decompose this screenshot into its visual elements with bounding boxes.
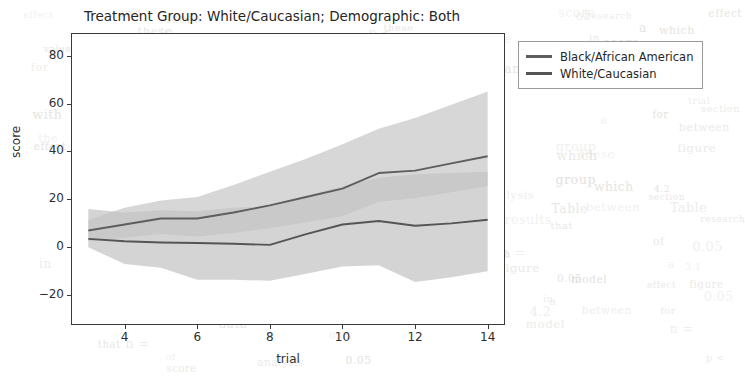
plot-svg (72, 34, 504, 324)
x-tick-mark (270, 325, 271, 329)
y-tick-label: 40 (30, 143, 64, 157)
bleed-text: a (600, 114, 607, 127)
bleed-text: in (543, 293, 554, 304)
x-tick-mark (125, 325, 126, 329)
legend-swatch-line (526, 55, 552, 57)
bleed-text: trial (688, 95, 710, 106)
bleed-text: p < (706, 352, 725, 363)
bleed-text: between (679, 121, 730, 134)
bleed-text: research (587, 10, 632, 21)
bleed-text: that (551, 220, 573, 231)
bleed-text: Table (670, 200, 707, 215)
x-tick-label: 10 (322, 330, 362, 344)
bleed-text: score (558, 5, 595, 20)
bleed-text: for (31, 61, 49, 74)
y-tick-label: 20 (30, 191, 64, 205)
bleed-text: in (39, 257, 52, 271)
x-axis-label: trial (0, 352, 576, 366)
x-tick-mark (197, 325, 198, 329)
bleed-text: effect (23, 9, 53, 20)
bleed-text: 0.05 (704, 290, 733, 304)
y-tick-label: 60 (30, 96, 64, 110)
chart-title: Treatment Group: White/Caucasian; Demogr… (84, 8, 460, 24)
bleed-text: results (505, 212, 552, 227)
bleed-text: Table (552, 202, 588, 216)
bleed-text: group (556, 139, 597, 154)
bleed-text: which (557, 148, 598, 163)
bleed-text: between (582, 304, 632, 317)
bleed-text: section (649, 192, 686, 202)
bleed-text: 4.2 (530, 304, 552, 319)
bleed-text: of (653, 235, 665, 248)
bleed-text: a (549, 295, 556, 308)
x-tick-label: 8 (250, 330, 290, 344)
bleed-text: for (660, 305, 676, 316)
bleed-text: section (701, 103, 740, 114)
bleed-text: effect (647, 280, 676, 290)
bleed-text: a (668, 258, 675, 271)
bleed-text: 3.1 (685, 261, 701, 272)
bleed-text: which (594, 180, 634, 194)
legend-item-label: Black/African American (560, 50, 693, 64)
x-tick-mark (488, 325, 489, 329)
bleed-text: 0.05 (692, 239, 723, 254)
x-tick-mark (342, 325, 343, 329)
bleed-text: model (526, 317, 565, 331)
bleed-text: research (700, 213, 745, 224)
bleed-text: 0.05 (557, 272, 582, 284)
bleed-text: between (586, 200, 640, 214)
bleed-text: group (555, 172, 596, 187)
bleed-text: n = (502, 245, 526, 260)
chart-legend: Black/African American White/Caucasian (518, 41, 703, 89)
legend-item-white-caucasian[interactable]: White/Caucasian (526, 65, 693, 82)
bleed-text: 4.2 (654, 184, 670, 194)
bleed-text: figure (501, 261, 540, 275)
x-tick-label: 6 (177, 330, 217, 344)
x-tick-label: 12 (395, 330, 435, 344)
x-tick-label: 4 (105, 330, 145, 344)
bleed-text: n = (670, 322, 693, 336)
legend-swatch-line (526, 72, 552, 74)
legend-item-black-african-american[interactable]: Black/African American (526, 48, 693, 65)
bleed-text: of (576, 8, 589, 23)
bleed-text: figure (689, 278, 723, 290)
bleed-text: figure (677, 141, 716, 155)
x-tick-mark (415, 325, 416, 329)
y-tick-label: 80 (30, 48, 64, 62)
bleed-text: which (659, 24, 695, 37)
x-tick-label: 14 (468, 330, 508, 344)
bleed-text: effect (708, 7, 742, 20)
y-tick-label: −20 (30, 287, 64, 301)
bleed-text: model (571, 273, 607, 286)
plot-area (71, 33, 505, 325)
y-axis-label: score (9, 126, 23, 158)
bleed-text: a (639, 21, 647, 35)
y-tick-label: 0 (30, 239, 64, 253)
bleed-text: for (652, 109, 668, 120)
bleed-text: these (580, 147, 615, 161)
legend-item-label: White/Caucasian (560, 67, 657, 81)
